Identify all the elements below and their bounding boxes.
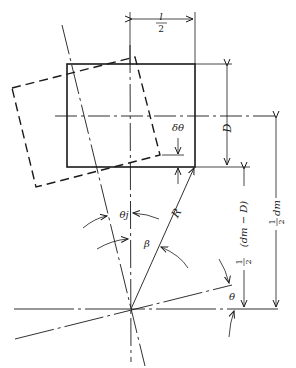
beta-arrow-left [97,239,128,249]
svg-text:1: 1 [268,219,277,224]
delta-theta-label: δθ [172,122,184,133]
beta-label: β [143,238,150,249]
radius-line [131,168,194,309]
svg-text:(dm − D): (dm − D) [238,201,249,248]
theta-label: θ [229,291,235,302]
theta-arrow-bottom [229,311,234,337]
theta-j-label: θj [119,209,128,220]
theta-inclined-line [15,285,232,339]
depth-label: D [221,123,234,133]
vertical-centerline [130,45,131,362]
half-dm-label: 1 2 dm [268,198,286,230]
svg-text:2: 2 [277,219,286,224]
svg-text:dm: dm [271,200,282,216]
svg-text:1: 1 [235,259,244,264]
diagram-canvas: l 2 D δθ R θj β θ 1 2 (dm − D) 1 2 dm [0,0,296,368]
radius-label: R [168,206,184,221]
beta-arrow-right [161,247,188,268]
theta-arrow-top [219,259,229,283]
svg-text:2: 2 [158,24,164,34]
theta-j-arrow-left [83,216,107,228]
half-length-label: l 2 [156,11,167,34]
rotated-centerline [62,25,145,366]
svg-text:2: 2 [244,259,253,264]
half-dm-minus-d-label: 1 2 (dm − D) [235,186,253,270]
original-section-rectangle [67,64,195,167]
svg-text:l: l [159,11,162,22]
theta-j-arrow-right [133,213,159,219]
